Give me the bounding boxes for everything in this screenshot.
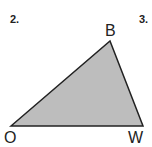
vertex-label-w: W [128,130,143,146]
vertex-label-b: B [105,23,116,39]
vertex-label-o: O [4,130,16,146]
problem-number-3: 3. [139,14,148,25]
problem-number-2: 2. [10,14,19,25]
triangle-obw [11,41,143,126]
triangle-diagram [0,0,152,147]
